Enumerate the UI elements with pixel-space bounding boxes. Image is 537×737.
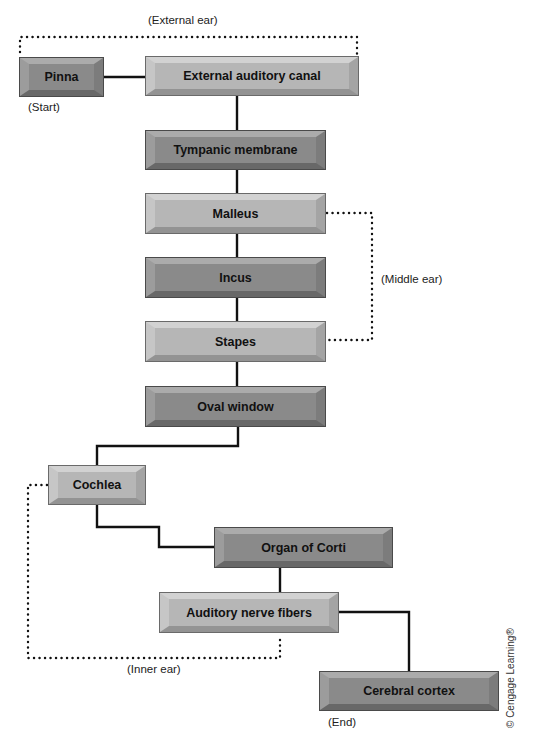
node-label: Cerebral cortex <box>363 684 455 698</box>
node-label: External auditory canal <box>183 69 321 83</box>
node-label: Stapes <box>215 335 256 349</box>
group-label-inner-ear: (Inner ear) <box>127 663 181 675</box>
node-stapes: Stapes <box>146 322 325 361</box>
node-label: Organ of Corti <box>261 541 346 555</box>
node-label: Oval window <box>197 400 273 414</box>
node-external-auditory-canal: External auditory canal <box>146 57 358 95</box>
copyright-notice: © Cengage Learning® <box>505 628 516 728</box>
node-cochlea: Cochlea <box>49 466 145 504</box>
connector-auditory_nerve_fibers-to-cerebral_cortex <box>338 612 409 672</box>
node-label: Malleus <box>213 207 259 221</box>
node-label: Pinna <box>44 70 78 84</box>
start-annotation: (Start) <box>28 101 60 113</box>
group-label-middle-ear: (Middle ear) <box>381 273 442 285</box>
end-annotation: (End) <box>328 716 356 728</box>
node-tympanic-membrane: Tympanic membrane <box>146 131 325 169</box>
connector-cochlea-to-organ_of_corti <box>97 504 215 547</box>
bracket-external_ear <box>20 37 357 54</box>
ear-pathway-diagram: Pinna External auditory canal Tympanic m… <box>0 0 537 737</box>
group-label-external-ear: (External ear) <box>148 14 218 26</box>
node-malleus: Malleus <box>146 194 325 233</box>
node-oval-window: Oval window <box>146 387 325 426</box>
node-label: Tympanic membrane <box>173 143 297 157</box>
connector-oval_window-to-cochlea <box>97 426 238 466</box>
node-pinna: Pinna <box>20 58 103 96</box>
node-auditory-nerve-fibers: Auditory nerve fibers <box>160 593 338 632</box>
node-label: Incus <box>219 271 252 285</box>
bracket-inner_ear <box>28 485 280 658</box>
node-cerebral-cortex: Cerebral cortex <box>320 672 498 710</box>
node-incus: Incus <box>146 258 325 297</box>
bracket-middle_ear <box>327 213 372 340</box>
node-label: Auditory nerve fibers <box>186 606 312 620</box>
node-organ-of-corti: Organ of Corti <box>215 528 392 567</box>
node-label: Cochlea <box>73 478 122 492</box>
